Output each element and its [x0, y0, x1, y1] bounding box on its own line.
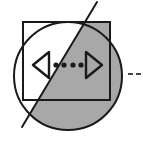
- figure-container: [0, 0, 143, 141]
- ellipsis-dot-3: [70, 62, 75, 67]
- ellipsis-dot-2: [61, 62, 66, 67]
- geometric-diagram: [0, 0, 143, 141]
- side-dash-2: [136, 73, 141, 75]
- ellipsis-dot-4: [78, 62, 83, 67]
- side-dash-1: [128, 73, 133, 75]
